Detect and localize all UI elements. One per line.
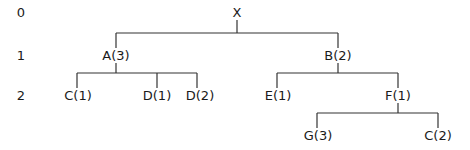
- node-d1: D(1): [143, 88, 171, 104]
- node-b2: B(2): [324, 48, 351, 64]
- node-root: X: [233, 5, 242, 21]
- level-label-1: 1: [17, 48, 25, 64]
- node-g3: G(3): [304, 128, 333, 144]
- node-c1: C(1): [64, 88, 92, 104]
- node-e1: E(1): [265, 88, 292, 104]
- node-c2: C(2): [424, 128, 452, 144]
- level-label-2: 2: [17, 88, 25, 104]
- level-label-0: 0: [17, 5, 25, 21]
- node-a3: A(3): [102, 48, 129, 64]
- node-d2: D(2): [186, 88, 214, 104]
- tree-connectors: [0, 0, 470, 150]
- node-f1: F(1): [385, 88, 411, 104]
